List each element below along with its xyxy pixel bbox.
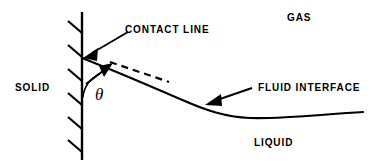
contact-angle-label: θ [95,86,103,103]
contact-line-arrow [83,32,128,61]
contact-angle-arrow [86,63,113,84]
solid-wall-hatching [68,21,82,152]
gas-label: GAS [287,13,311,23]
fluid-interface-arrow-shaft [217,88,252,100]
fluid-interface-arrow [205,88,252,106]
hatch-mark [68,117,82,129]
liquid-label: LIQUID [254,138,293,148]
fluid-interface-arrow-head [205,94,222,106]
solid-label: SOLID [15,83,50,93]
hatch-mark [68,45,82,57]
hatch-mark [68,69,82,81]
fluid-interface-label: FLUID INTERFACE [258,83,360,93]
hatch-mark [68,21,82,33]
hatch-mark [68,93,82,105]
hatch-mark [68,140,82,152]
contact-line-label: CONTACT LINE [125,25,210,35]
contact-line-diagram: GAS CONTACT LINE SOLID θ FLUID INTERFACE… [0,0,380,166]
contact-angle-arrow-shaft [86,71,103,84]
